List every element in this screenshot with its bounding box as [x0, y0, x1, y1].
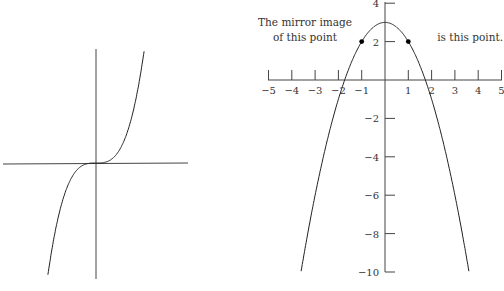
y-tick-label: 2 — [373, 37, 379, 48]
x-tick-label: 5 — [498, 85, 504, 96]
figure: −5−4−3−2−112345 42−2−4−6−8−10 The mirror… — [0, 0, 504, 291]
y-tick-label: −4 — [364, 152, 379, 163]
x-tick-label: −3 — [308, 85, 323, 96]
point-right — [406, 39, 411, 44]
cubic-chart — [3, 49, 188, 279]
x-tick-label: 4 — [475, 85, 481, 96]
y-tick-label: 4 — [373, 0, 379, 9]
x-tick-label: −2 — [331, 85, 346, 96]
y-tick-label: −8 — [364, 229, 379, 240]
point-left — [359, 39, 364, 44]
x-ticks: −5−4−3−2−112345 — [261, 70, 504, 96]
x-tick-label: −4 — [284, 85, 299, 96]
annotation-left-line2: of this point — [273, 31, 338, 43]
y-tick-label: −2 — [364, 113, 379, 124]
annotation-left-line1: The mirror image — [258, 16, 352, 28]
annotation-right: is this point. — [437, 31, 503, 43]
x-tick-label: 3 — [452, 85, 458, 96]
y-tick-label: −6 — [364, 190, 379, 201]
parabola-chart: −5−4−3−2−112345 42−2−4−6−8−10 The mirror… — [258, 0, 504, 278]
x-tick-label: 1 — [405, 85, 411, 96]
x-tick-label: −5 — [261, 85, 276, 96]
y-tick-label: −10 — [358, 267, 379, 278]
x-tick-label: −1 — [354, 85, 369, 96]
